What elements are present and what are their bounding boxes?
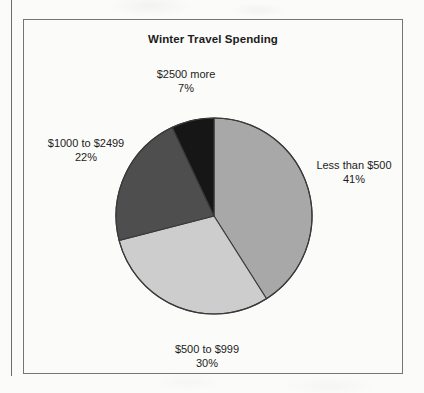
page-margin-rule <box>11 0 12 376</box>
pie-label-500-to-999-name: $500 to $999 <box>127 343 287 357</box>
pie-label-2500-more-percent: 7% <box>116 82 256 96</box>
pie-label-less-than-500-name: Less than $500 <box>306 159 402 173</box>
pie-label-2500-more: $2500 more 7% <box>116 68 256 95</box>
pie-label-500-to-999-percent: 30% <box>127 357 287 371</box>
pie-label-500-to-999: $500 to $999 30% <box>127 343 287 370</box>
pie-label-2500-more-name: $2500 more <box>116 68 256 82</box>
pie-label-1000-to-2499-name: $1000 to $2499 <box>26 137 146 151</box>
chart-frame: Winter Travel Spending $2500 more 7% $10… <box>23 19 403 374</box>
pie-label-less-than-500-percent: 41% <box>306 173 402 187</box>
pie-label-1000-to-2499-percent: 22% <box>26 151 146 165</box>
pie-label-less-than-500: Less than $500 41% <box>306 159 402 186</box>
pie-label-1000-to-2499: $1000 to $2499 22% <box>26 137 146 164</box>
